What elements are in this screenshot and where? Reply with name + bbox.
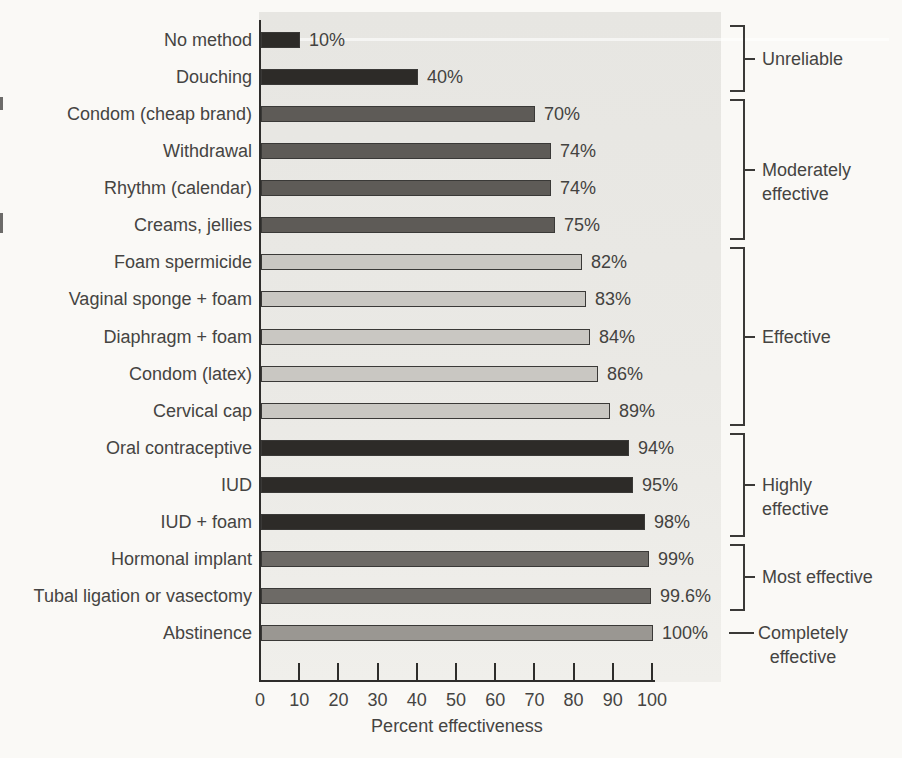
bracket-line: [745, 58, 755, 60]
bar: [261, 291, 586, 307]
x-tick-mark: [377, 663, 379, 680]
bar: [261, 588, 651, 604]
bar: [261, 329, 590, 345]
bar-value-label: 74%: [560, 176, 596, 200]
bar-value-label: 100%: [662, 621, 708, 645]
bar-value-label: 98%: [654, 510, 690, 534]
bar-value-label: 94%: [638, 436, 674, 460]
bracket-line: [745, 336, 755, 338]
category-label: Rhythm (calendar): [0, 176, 252, 200]
x-tick-mark: [494, 663, 496, 680]
bar-value-label: 75%: [564, 213, 600, 237]
group-label-line: effective: [762, 497, 829, 521]
category-label: Oral contraceptive: [0, 436, 252, 460]
bar-value-label: 10%: [309, 28, 345, 52]
category-label: Condom (latex): [0, 362, 252, 386]
group-label: Unreliable: [762, 47, 843, 71]
x-axis-title: Percent effectiveness: [332, 716, 582, 737]
bar: [261, 143, 551, 159]
group-label-line: Completely: [758, 621, 848, 645]
bar: [261, 625, 653, 641]
bar: [261, 180, 551, 196]
bracket-line: [730, 424, 743, 426]
bracket-line: [730, 609, 743, 611]
bracket-line: [730, 25, 743, 27]
category-label: Tubal ligation or vasectomy: [0, 584, 252, 608]
category-label: Douching: [0, 65, 252, 89]
bracket-line: [730, 90, 743, 92]
x-tick-mark: [612, 663, 614, 680]
bar-value-label: 86%: [607, 362, 643, 386]
bar-value-label: 99.6%: [660, 584, 711, 608]
category-label: Cervical cap: [0, 399, 252, 423]
bar: [261, 217, 555, 233]
category-label: IUD: [0, 473, 252, 497]
bracket-line: [730, 433, 743, 435]
group-label-line: Highly: [762, 473, 829, 497]
group-label: Most effective: [762, 565, 873, 589]
group-label-line: Effective: [762, 325, 831, 349]
x-tick-label: 100: [629, 690, 675, 711]
category-label: Foam spermicide: [0, 250, 252, 274]
category-label: Diaphragm + foam: [0, 325, 252, 349]
group-label: Effective: [762, 325, 831, 349]
category-label: Withdrawal: [0, 139, 252, 163]
bar: [261, 32, 300, 48]
bracket-line: [745, 576, 755, 578]
group-label-line: Moderately: [762, 158, 851, 182]
x-axis-line: [259, 680, 655, 682]
bracket-line: [730, 247, 743, 249]
bar-value-label: 84%: [599, 325, 635, 349]
category-label: Hormonal implant: [0, 547, 252, 571]
bracket-line: [745, 484, 755, 486]
group-label-line: effective: [762, 182, 851, 206]
group-label: Moderatelyeffective: [762, 158, 851, 206]
bar-value-label: 74%: [560, 139, 596, 163]
bracket-line: [730, 99, 743, 101]
bar: [261, 403, 610, 419]
group-label-line: Most effective: [762, 565, 873, 589]
x-tick-mark: [573, 663, 575, 680]
bracket-line: [745, 169, 755, 171]
bar-value-label: 70%: [544, 102, 580, 126]
scan-artifact-streak: [259, 38, 889, 41]
category-label: Creams, jellies: [0, 213, 252, 237]
category-label: No method: [0, 28, 252, 52]
x-tick-mark: [455, 663, 457, 680]
category-label: Condom (cheap brand): [0, 102, 252, 126]
x-tick-mark: [533, 663, 535, 680]
x-tick-mark: [298, 663, 300, 680]
bar: [261, 366, 598, 382]
bar-value-label: 89%: [619, 399, 655, 423]
group-label: Highlyeffective: [762, 473, 829, 521]
bar-value-label: 82%: [591, 250, 627, 274]
bar: [261, 477, 633, 493]
x-tick-mark: [651, 663, 653, 680]
group-label-line: effective: [758, 645, 848, 669]
group-label: Completelyeffective: [758, 621, 848, 669]
bar-value-label: 40%: [427, 65, 463, 89]
bracket-line: [730, 238, 743, 240]
effectiveness-bar-chart: No method10%Douching40%Condom (cheap bra…: [0, 0, 902, 758]
bar: [261, 551, 649, 567]
bar-value-label: 83%: [595, 287, 631, 311]
bar: [261, 514, 645, 530]
bar-value-label: 99%: [658, 547, 694, 571]
category-label: IUD + foam: [0, 510, 252, 534]
group-label-line: Unreliable: [762, 47, 843, 71]
bar: [261, 440, 629, 456]
x-tick-mark: [337, 663, 339, 680]
category-label: Abstinence: [0, 621, 252, 645]
category-label: Vaginal sponge + foam: [0, 287, 252, 311]
bracket-line: [730, 544, 743, 546]
bar: [261, 106, 535, 122]
bracket-line: [730, 535, 743, 537]
bar-value-label: 95%: [642, 473, 678, 497]
bar: [261, 254, 582, 270]
x-tick-mark: [416, 663, 418, 680]
bracket-line: [729, 632, 754, 634]
bar: [261, 69, 418, 85]
